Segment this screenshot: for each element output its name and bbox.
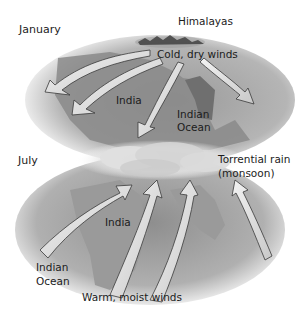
india-july-label: India <box>105 216 131 229</box>
indian-ocean-january-label-line2: Ocean <box>177 121 211 134</box>
torrential-rain-label-line2: (monsoon) <box>218 167 274 180</box>
cold-dry-winds-label: Cold, dry winds <box>157 48 238 61</box>
indian-ocean-july-label-line2: Ocean <box>36 275 70 288</box>
himalayas-label: Himalayas <box>178 15 233 28</box>
indian-ocean-january-label-line1: Indian <box>177 108 209 121</box>
torrential-rain-label-line1: Torrential rain <box>218 153 290 166</box>
july-label: July <box>18 154 38 167</box>
monsoon-diagram: January Himalayas Cold, dry winds India … <box>0 0 295 316</box>
warm-moist-winds-label: Warm, moist winds <box>82 291 182 304</box>
indian-ocean-july-label-line1: Indian <box>36 261 68 274</box>
january-label: January <box>19 23 61 36</box>
india-january-label: India <box>116 94 142 107</box>
